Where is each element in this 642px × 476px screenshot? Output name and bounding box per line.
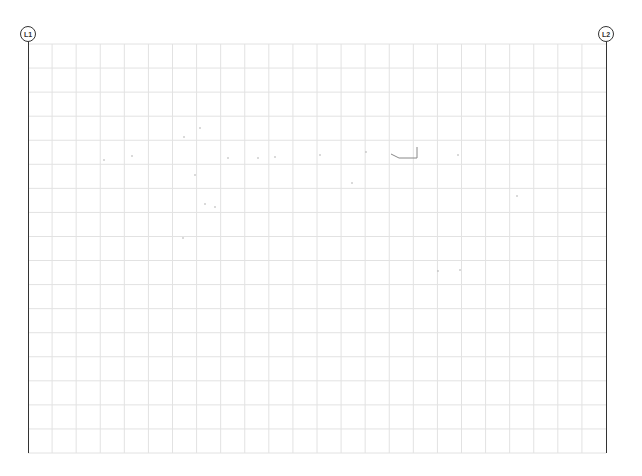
drawing-speck <box>214 206 216 208</box>
drawing-speck <box>183 136 185 138</box>
drawing-speck <box>199 127 201 129</box>
drawing-speck <box>457 154 459 156</box>
drawing-speck <box>437 270 439 272</box>
drawing-speck <box>274 156 276 158</box>
drawing-speck <box>516 195 518 197</box>
drawing-speck <box>194 174 196 176</box>
drawing-speck <box>459 269 461 271</box>
drawing-speck <box>204 203 206 205</box>
gridline-bubble-l2[interactable]: L2 <box>598 26 614 42</box>
drawing-speck <box>351 182 353 184</box>
drawing-speck <box>257 157 259 159</box>
gridline-label-l2: L2 <box>602 31 610 38</box>
drawing-speck <box>365 151 367 153</box>
drawing-speck <box>182 237 184 239</box>
gridline-label-l1: L1 <box>24 31 32 38</box>
gridline-l2-axis <box>606 35 607 453</box>
grid-plan <box>0 0 642 476</box>
drawing-speck <box>227 157 229 159</box>
drawing-speck <box>131 155 133 157</box>
gridline-bubble-l1[interactable]: L1 <box>20 26 36 42</box>
gridline-l1-axis <box>28 35 29 453</box>
drawing-speck <box>103 159 105 161</box>
drawing-speck <box>319 154 321 156</box>
